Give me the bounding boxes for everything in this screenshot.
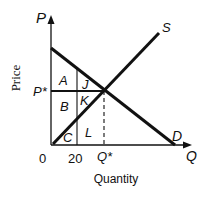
y-axis-label: Price xyxy=(8,64,23,91)
region-b-label: B xyxy=(60,99,69,114)
region-a-label: A xyxy=(58,73,68,88)
supply-curve xyxy=(53,33,159,144)
supply-demand-diagram: P Q 0 Price Quantity S D P* Q* 20 A J B … xyxy=(0,0,208,198)
y-axis-arrow-icon xyxy=(48,15,55,24)
region-l-label: L xyxy=(85,125,92,140)
x-axis-label: Quantity xyxy=(94,172,139,186)
x-axis-symbol: Q xyxy=(186,148,197,164)
y-axis-symbol: P xyxy=(36,9,46,26)
q20-tick-label: 20 xyxy=(68,151,82,166)
demand-label: D xyxy=(172,128,182,144)
region-k-label: K xyxy=(80,93,90,108)
p-star-label: P* xyxy=(33,84,48,99)
region-c-label: C xyxy=(63,130,73,145)
origin-label: 0 xyxy=(39,151,46,166)
region-j-label: J xyxy=(81,77,89,92)
supply-label: S xyxy=(162,20,171,35)
q-star-label: Q* xyxy=(97,149,113,164)
